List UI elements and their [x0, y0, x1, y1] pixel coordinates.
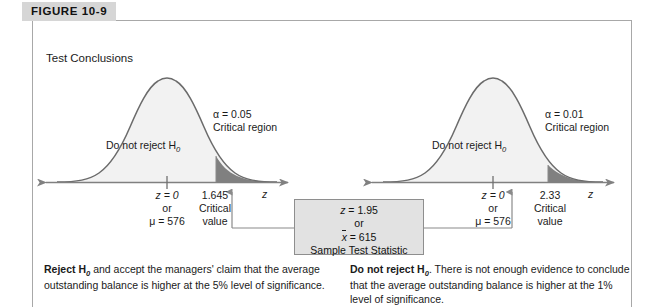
right-or-1: or: [459, 202, 527, 215]
figure-10-9: FIGURE 10-9 Test Conclusions: [0, 0, 662, 307]
right-critical-value-number: 2.33: [524, 189, 576, 202]
statistic-xbar-value: = 615: [347, 231, 377, 243]
left-alpha-value: α = 0.05: [213, 108, 277, 121]
figure-subtitle: Test Conclusions: [46, 52, 133, 64]
right-mu-value: μ = 576: [459, 215, 527, 228]
left-do-not-reject-sub: 0: [176, 145, 180, 154]
right-conclusion-text: Do not reject H0. There is not enough ev…: [350, 263, 635, 307]
right-conclusion-bold: Do not reject H0: [350, 263, 429, 275]
sample-test-statistic-box: z = 1.95 or x = 615 Sample Test Statisti…: [294, 199, 424, 255]
right-alpha-annotation: α = 0.01 Critical region: [545, 108, 609, 134]
statistic-xbar-var: x: [342, 231, 347, 244]
statistic-z-value: = 1.95: [345, 204, 377, 216]
right-z-zero: z = 0: [459, 189, 527, 202]
right-critical-value-label: 2.33 Critical value: [524, 189, 576, 227]
left-critical-region-label: Critical region: [213, 121, 277, 134]
left-do-not-reject-label: Do not reject H0: [106, 139, 180, 154]
right-do-not-reject-label: Do not reject H0: [432, 139, 506, 154]
left-axis-label: z: [262, 188, 267, 201]
statistic-xbar-line: x = 615: [295, 231, 423, 244]
right-critical-region-label: Critical region: [545, 121, 609, 134]
left-value-word: value: [189, 215, 241, 228]
left-critical-value-label: 1.645 Critical value: [189, 189, 241, 227]
right-value-word: value: [524, 215, 576, 228]
right-do-not-reject-sub: 0: [502, 145, 506, 154]
right-mean-tick-label: z = 0 or μ = 576: [459, 189, 527, 227]
right-alpha-value: α = 0.01: [545, 108, 609, 121]
statistic-caption: Sample Test Statistic: [295, 244, 423, 257]
right-axis-label: z: [588, 188, 593, 201]
statistic-or: or: [295, 217, 423, 230]
left-critical-word: Critical: [189, 202, 241, 215]
figure-legend-gap: [53, 33, 171, 36]
statistic-z-line: z = 1.95: [295, 204, 423, 217]
left-conclusion-bold: Reject H0: [44, 263, 90, 275]
right-critical-word: Critical: [524, 202, 576, 215]
figure-number-badge: FIGURE 10-9: [22, 2, 116, 21]
left-conclusion-text: Reject H0 and accept the managers' claim…: [44, 263, 344, 293]
left-alpha-annotation: α = 0.05 Critical region: [213, 108, 277, 134]
left-critical-value-number: 1.645: [189, 189, 241, 202]
